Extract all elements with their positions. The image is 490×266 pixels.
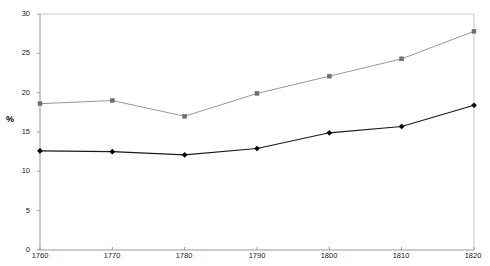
series-line-upper-series: [40, 31, 474, 116]
data-point-marker: [327, 130, 332, 135]
data-point-marker: [38, 102, 42, 106]
data-point-marker: [399, 124, 404, 129]
data-point-marker: [400, 57, 404, 61]
data-point-marker: [183, 114, 187, 118]
data-series-layer: [37, 29, 476, 157]
data-point-marker: [110, 149, 115, 154]
data-point-marker: [254, 146, 259, 151]
data-point-marker: [255, 91, 259, 95]
data-point-marker: [37, 148, 42, 153]
data-point-marker: [110, 99, 114, 103]
data-point-marker: [472, 29, 476, 33]
plot-frame: [40, 14, 474, 250]
line-chart: % 30 25 20 15 10 5 0 1760 1770 1780 1790…: [0, 0, 490, 266]
data-point-marker: [327, 74, 331, 78]
data-point-marker: [471, 103, 476, 108]
plot-area: [0, 0, 490, 266]
data-point-marker: [182, 152, 187, 157]
